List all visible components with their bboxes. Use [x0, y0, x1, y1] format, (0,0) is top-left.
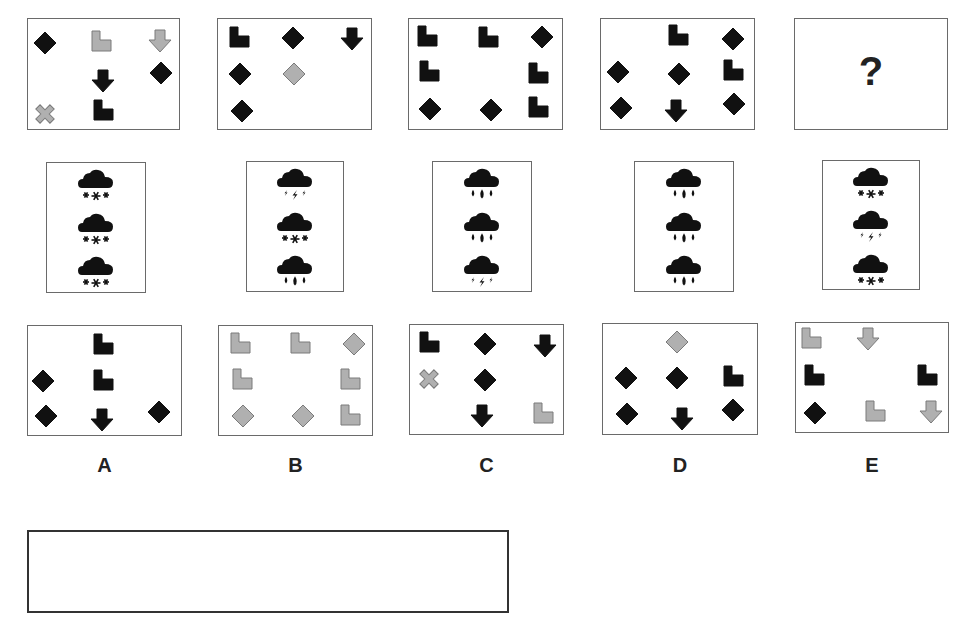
cloud-snow-icon [77, 255, 115, 293]
black-lshape-icon [418, 60, 442, 88]
cloud-thunder-icon [852, 209, 890, 247]
black-arrow-icon [90, 408, 114, 436]
black-lshape-icon [416, 25, 440, 53]
black-diamond-icon [665, 366, 689, 394]
black-lshape-icon [722, 59, 746, 87]
black-diamond-icon [530, 25, 554, 53]
cloud-thunder-icon [463, 254, 501, 292]
answer-input-box[interactable] [27, 530, 509, 613]
gray-lshape-icon [800, 327, 824, 355]
question-panel-5: ? [794, 18, 948, 130]
gray-cross-icon [33, 102, 57, 130]
gray-diamond-icon [291, 404, 315, 432]
black-diamond-icon [609, 96, 633, 124]
gray-arrow-icon [148, 29, 172, 57]
black-diamond-icon [473, 368, 497, 396]
black-diamond-icon [606, 60, 630, 88]
black-lshape-icon [667, 24, 691, 52]
answer-label-B[interactable]: B [281, 454, 311, 477]
black-diamond-icon [803, 401, 827, 429]
black-lshape-icon [803, 364, 827, 392]
answer-label-E[interactable]: E [857, 454, 887, 477]
cloud-rain-icon [665, 211, 703, 249]
black-diamond-icon [721, 27, 745, 55]
black-diamond-icon [230, 99, 254, 127]
black-diamond-icon [722, 92, 746, 120]
cloud-rain-icon [463, 211, 501, 249]
question-mark: ? [795, 49, 947, 94]
cloud-thunder-icon [276, 167, 314, 205]
black-diamond-icon [667, 62, 691, 90]
gray-lshape-icon [231, 368, 255, 396]
cloud-snow-icon [77, 168, 115, 206]
cloud-rain-icon [665, 167, 703, 205]
black-arrow-icon [91, 69, 115, 97]
gray-lshape-icon [339, 404, 363, 432]
gray-arrow-icon [919, 400, 943, 428]
black-diamond-icon [281, 26, 305, 54]
gray-diamond-icon [665, 330, 689, 358]
black-diamond-icon [33, 31, 57, 59]
black-diamond-icon [31, 369, 55, 397]
black-arrow-icon [470, 404, 494, 432]
answer-label-A[interactable]: A [90, 454, 120, 477]
black-diamond-icon [418, 97, 442, 125]
gray-diamond-icon [282, 62, 306, 90]
cloud-rain-icon [665, 254, 703, 292]
black-lshape-icon [477, 26, 501, 54]
cloud-snow-icon [77, 212, 115, 250]
gray-lshape-icon [532, 402, 556, 430]
gray-diamond-icon [231, 404, 255, 432]
cloud-rain-icon [276, 254, 314, 292]
black-lshape-icon [527, 96, 551, 124]
black-diamond-icon [615, 402, 639, 430]
black-lshape-icon [92, 333, 116, 361]
black-diamond-icon [147, 400, 171, 428]
black-arrow-icon [670, 407, 694, 435]
gray-lshape-icon [864, 400, 888, 428]
black-diamond-icon [473, 332, 497, 360]
black-lshape-icon [92, 99, 116, 127]
gray-lshape-icon [229, 332, 253, 360]
black-diamond-icon [721, 398, 745, 426]
black-lshape-icon [722, 365, 746, 393]
gray-lshape-icon [339, 368, 363, 396]
cloud-snow-icon [852, 253, 890, 291]
black-lshape-icon [92, 369, 116, 397]
black-lshape-icon [527, 62, 551, 90]
black-lshape-icon [418, 331, 442, 359]
black-arrow-icon [664, 99, 688, 127]
black-lshape-icon [916, 364, 940, 392]
black-diamond-icon [614, 366, 638, 394]
black-arrow-icon [533, 334, 557, 362]
black-diamond-icon [479, 98, 503, 126]
cloud-snow-icon [276, 211, 314, 249]
black-diamond-icon [149, 61, 173, 89]
cloud-rain-icon [463, 167, 501, 205]
gray-lshape-icon [289, 332, 313, 360]
gray-diamond-icon [342, 332, 366, 360]
cloud-snow-icon [852, 166, 890, 204]
black-arrow-icon [340, 27, 364, 55]
black-diamond-icon [228, 62, 252, 90]
gray-lshape-icon [90, 30, 114, 58]
black-lshape-icon [228, 26, 252, 54]
answer-label-D[interactable]: D [665, 454, 695, 477]
black-diamond-icon [34, 404, 58, 432]
gray-cross-icon [417, 367, 441, 395]
gray-arrow-icon [856, 327, 880, 355]
answer-label-C[interactable]: C [472, 454, 502, 477]
